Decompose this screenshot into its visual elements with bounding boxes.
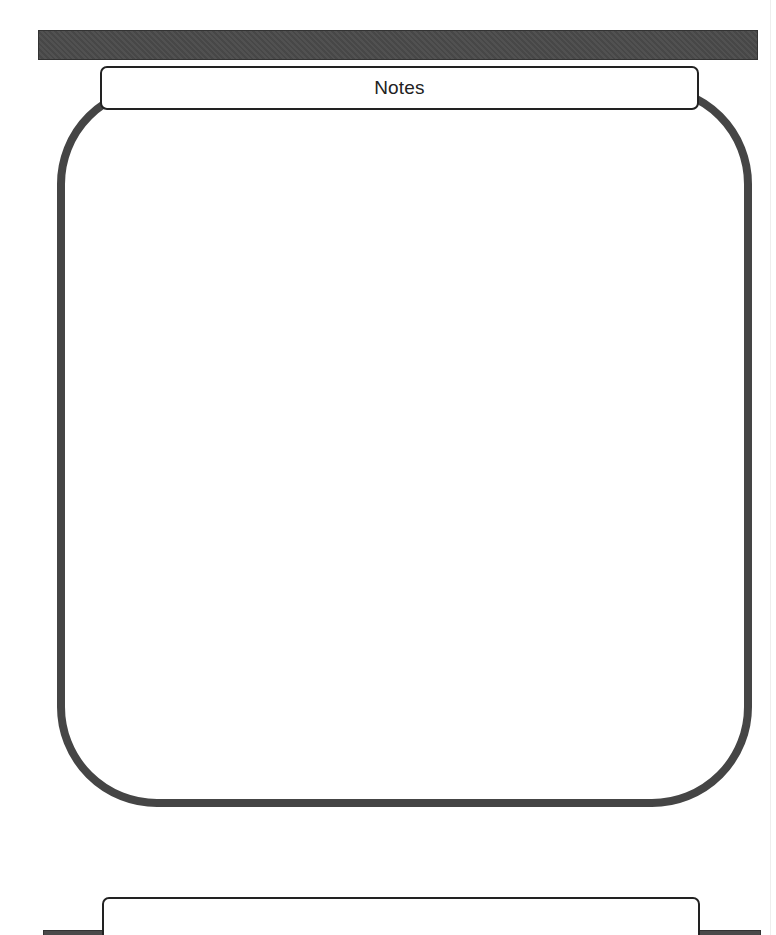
- bottom-title-box: [102, 897, 700, 935]
- header-bar: [38, 30, 758, 60]
- notes-title: Notes: [374, 77, 425, 99]
- page-edge-divider: [770, 0, 771, 935]
- notes-title-box: Notes: [100, 66, 699, 110]
- notes-textarea[interactable]: [85, 132, 724, 779]
- notes-frame: [57, 84, 752, 807]
